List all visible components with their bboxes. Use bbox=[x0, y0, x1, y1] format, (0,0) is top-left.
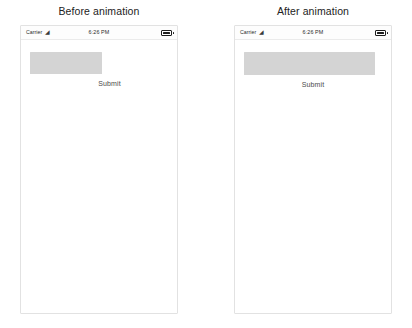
submit-button-label[interactable]: Submit bbox=[235, 81, 391, 88]
submit-button-label[interactable]: Submit bbox=[21, 80, 176, 87]
battery-fill bbox=[163, 32, 171, 34]
text-field-collapsed[interactable] bbox=[30, 52, 102, 74]
status-bar-before: Carrier ◢ 6:26 PM bbox=[21, 26, 177, 40]
app-screen-after: Submit bbox=[235, 40, 391, 314]
battery-fill bbox=[377, 32, 385, 34]
battery-cap bbox=[387, 32, 388, 35]
panel-title-after: After animation bbox=[220, 5, 406, 17]
battery-icon bbox=[161, 30, 172, 36]
phone-frame-after: Carrier ◢ 6:26 PM Submit bbox=[234, 25, 392, 314]
status-bar-after: Carrier ◢ 6:26 PM bbox=[235, 26, 391, 40]
status-bar-time: 6:26 PM bbox=[21, 28, 177, 36]
phone-frame-before: Carrier ◢ 6:26 PM Submit bbox=[20, 25, 178, 314]
status-bar-time: 6:26 PM bbox=[235, 28, 391, 36]
comparison-stage: Before animation Carrier ◢ 6:26 PM Submi… bbox=[0, 0, 412, 328]
battery-icon bbox=[375, 30, 386, 36]
battery-cap bbox=[173, 32, 174, 35]
text-field-expanded[interactable] bbox=[244, 52, 375, 75]
app-screen-before: Submit bbox=[21, 40, 177, 314]
panel-title-before: Before animation bbox=[6, 5, 192, 17]
